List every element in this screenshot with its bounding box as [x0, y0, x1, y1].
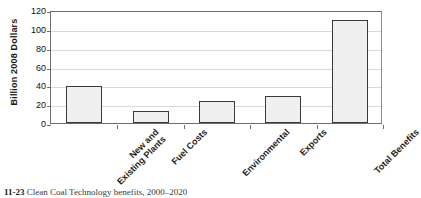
bar	[199, 101, 235, 123]
x-axis-category-label-line1: Fuel Costs	[169, 127, 209, 167]
y-axis-title: Billion 2008 Dollars	[9, 2, 19, 122]
bar	[332, 20, 368, 123]
bar	[265, 96, 301, 123]
y-axis-tick-label: 60	[36, 63, 46, 72]
y-axis-tick-labels: 120100806040200	[20, 11, 46, 124]
x-axis-tick-mark	[383, 125, 384, 129]
x-axis-category-label-line1: Exports	[298, 127, 329, 158]
figure-caption: 11-23 Clean Coal Technology benefits, 20…	[4, 187, 392, 198]
bar	[66, 86, 102, 123]
x-axis-category-label-line1: Environmental	[240, 127, 291, 178]
y-axis-tick-label: 100	[31, 25, 46, 34]
y-axis-tick-label: 20	[36, 101, 46, 110]
x-axis-category-label: Environmental	[240, 127, 291, 178]
plot-area	[50, 11, 382, 124]
x-axis-category-label: Exports	[298, 127, 329, 158]
figure-number: 11-23	[4, 187, 25, 197]
figure-caption-text: Clean Coal Technology benefits, 2000–202…	[27, 187, 187, 197]
x-axis-category-label-line1: Total Benefits	[372, 127, 421, 176]
y-axis-tick-label: 80	[36, 44, 46, 53]
x-axis-category-label: New andExisting Plants	[108, 127, 168, 187]
x-axis-category-labels: New andExisting PlantsFuel CostsEnvironm…	[50, 124, 382, 182]
x-axis-category-label: Total Benefits	[372, 127, 421, 176]
bar	[133, 111, 169, 123]
y-axis-tick-label: 0	[41, 120, 46, 129]
y-axis-tick-label: 120	[31, 7, 46, 16]
x-axis-category-label: Fuel Costs	[169, 127, 209, 167]
y-axis-tick-label: 40	[36, 82, 46, 91]
bar-series	[51, 12, 381, 123]
